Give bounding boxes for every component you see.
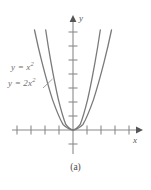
curve-label-y-equals-2x-squared: y = 2x2 xyxy=(8,79,36,88)
x-axis-label: x xyxy=(133,136,137,145)
figure-caption: (a) xyxy=(0,163,151,173)
x-axis-arrow-icon xyxy=(136,127,143,134)
y-axis-label: y xyxy=(79,14,83,23)
curve-label-inner-text: y = 2x xyxy=(8,78,32,88)
curve-label-outer-text: y = x xyxy=(11,62,31,72)
curve-label-outer-exponent: 2 xyxy=(31,60,34,67)
curve-label-inner-exponent: 2 xyxy=(32,76,35,83)
figure-container: y = x2 y = 2x2 y x (a) xyxy=(0,0,151,190)
y-axis-arrow-icon xyxy=(70,15,77,22)
curve-label-y-equals-x-squared: y = x2 xyxy=(11,63,34,72)
label-leader-line xyxy=(43,79,53,88)
